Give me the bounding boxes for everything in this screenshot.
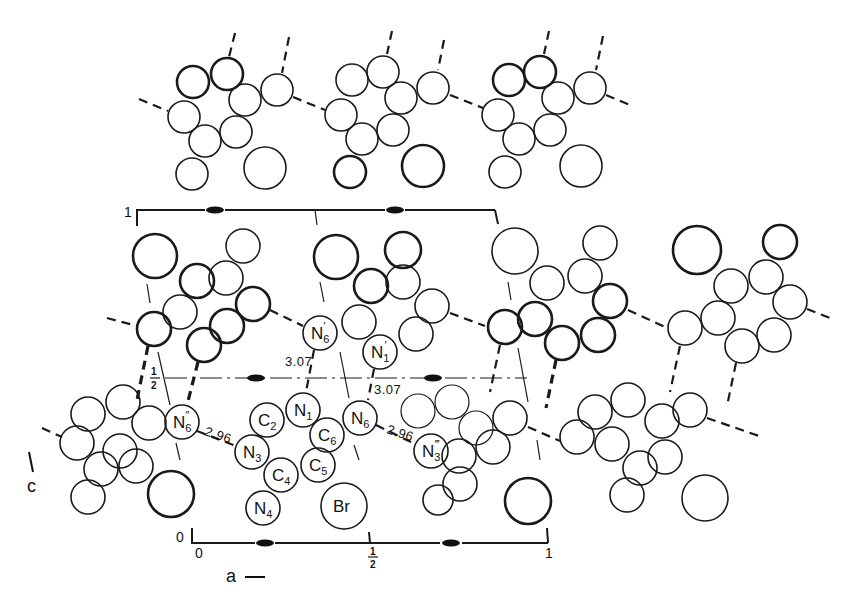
unit-cell [137,207,548,547]
label-N1: N1 [294,401,312,422]
molecule [303,232,485,400]
label-N3: N3 [243,443,261,464]
molecule [139,33,325,190]
molecule-row-bottom [42,383,762,529]
molecule-row-middle [107,225,830,408]
distance-N1p-N6: 3.07 [374,382,401,397]
distance-N6pp-N3: 2.96 [203,424,234,447]
label-N4: N4 [254,499,272,520]
molecule-row-top [139,31,630,190]
distance-N6p-N1: 3.07 [285,354,312,369]
a-tick-half-num: 1 [370,546,376,557]
c-tick-zero: 0 [176,529,184,545]
c-axis-label: c [27,476,36,496]
a-tick-one: 1 [545,545,553,561]
molecule [668,225,830,406]
c-tick-half-num: 1 [151,366,157,377]
label-N6: N6 [351,409,369,430]
molecule [488,226,665,408]
label-C2: C2 [258,411,276,432]
label-N6-dprime: N6″ [173,409,191,434]
molecule [482,31,630,188]
label-N3-tprime: N3‴ [422,438,440,463]
a-tick-half-den: 2 [370,559,376,570]
distance-N6-N3ppp: 2.96 [385,422,416,445]
molecule [325,31,483,188]
label-N1-prime: N1′ [371,339,389,364]
molecule [560,383,762,521]
axes: a c [27,452,265,586]
crystal-structure-diagram: 1 1 2 0 0 1 2 1 a c [0,0,847,603]
c-tick-half-den: 2 [151,380,157,391]
atom-labels: N6′ N1′ N1 C2 N3 C4 C5 C6 N6 N4 Br N6″ N… [173,320,440,520]
c-tick-one: 1 [124,204,132,220]
a-tick-zero: 0 [195,545,203,561]
label-C4: C4 [272,466,290,487]
label-C6: C6 [318,426,336,447]
c-axis-arrow [29,452,33,472]
molecule [42,385,194,517]
label-Br: Br [333,497,350,516]
label-N6-prime: N6′ [311,320,329,345]
a-axis-label: a [226,566,237,586]
label-C5: C5 [309,456,327,477]
